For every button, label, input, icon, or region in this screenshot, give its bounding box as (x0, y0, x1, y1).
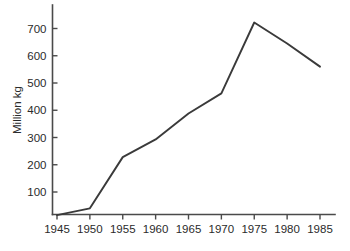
line-chart: 100200300400500600700 194519501955196019… (0, 0, 350, 251)
x-tick-label: 1985 (307, 223, 333, 235)
y-tick-label: 500 (27, 77, 46, 89)
data-series-line (57, 23, 320, 216)
x-tick-label: 1965 (176, 223, 202, 235)
y-tick-label: 700 (27, 23, 46, 35)
y-tick-label: 400 (27, 104, 46, 116)
x-tick-label: 1950 (77, 223, 103, 235)
y-axis-tick-labels: 100200300400500600700 (27, 23, 46, 199)
chart-canvas: 100200300400500600700 194519501955196019… (0, 0, 350, 251)
x-tick-label: 1945 (44, 223, 70, 235)
y-tick-label: 300 (27, 132, 46, 144)
x-tick-label: 1975 (241, 223, 267, 235)
x-tick-label: 1960 (143, 223, 169, 235)
y-tick-label: 100 (27, 186, 46, 198)
x-tick-label: 1980 (274, 223, 300, 235)
y-tick-label: 600 (27, 50, 46, 62)
y-tick-label: 200 (27, 159, 46, 171)
x-tick-label: 1970 (209, 223, 235, 235)
y-axis-title: Million kg (11, 86, 23, 134)
x-tick-label: 1955 (110, 223, 136, 235)
x-axis-tick-labels: 194519501955196019651970197519801985 (44, 223, 333, 235)
